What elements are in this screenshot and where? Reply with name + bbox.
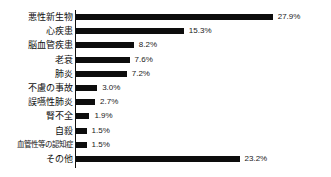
bar-row: その他23.2%	[0, 152, 331, 166]
bar-value-label: 1.5%	[92, 138, 110, 152]
bar-value-label: 7.2%	[132, 67, 150, 81]
bar	[76, 142, 87, 148]
bar-row: 肺炎7.2%	[0, 67, 331, 81]
bar	[76, 57, 130, 63]
bar	[76, 156, 240, 162]
bar-value-label: 2.7%	[100, 95, 118, 109]
bar	[76, 28, 184, 34]
bar-row: 腎不全1.9%	[0, 109, 331, 123]
bar	[76, 128, 87, 134]
category-label: 腎不全	[0, 109, 73, 123]
category-label: その他	[0, 152, 73, 166]
bar-value-label: 1.9%	[94, 109, 112, 123]
bar-value-label: 8.2%	[139, 38, 157, 52]
bar	[76, 71, 127, 77]
category-label: 誤嚥性肺炎	[0, 95, 73, 109]
bar	[76, 42, 134, 48]
bar-row: 血管性等の認知症1.5%	[0, 138, 331, 152]
plot-area: 悪性新生物27.9%心疾患15.3%脳血管疾患8.2%老衰7.6%肺炎7.2%不…	[0, 0, 331, 177]
category-label: 自殺	[0, 124, 73, 138]
bar-chart: 悪性新生物27.9%心疾患15.3%脳血管疾患8.2%老衰7.6%肺炎7.2%不…	[0, 0, 331, 177]
bar-row: 誤嚥性肺炎2.7%	[0, 95, 331, 109]
bar	[76, 14, 273, 20]
bar-row: 心疾患15.3%	[0, 24, 331, 38]
bar-value-label: 7.6%	[135, 53, 153, 67]
category-label: 不慮の事故	[0, 81, 73, 95]
bar-row: 悪性新生物27.9%	[0, 10, 331, 24]
bar-value-label: 15.3%	[189, 24, 212, 38]
bar	[76, 85, 97, 91]
bar-row: 不慮の事故3.0%	[0, 81, 331, 95]
bar-row: 脳血管疾患8.2%	[0, 38, 331, 52]
category-label: 老衰	[0, 53, 73, 67]
category-label: 脳血管疾患	[0, 38, 73, 52]
bar	[76, 113, 89, 119]
category-label: 心疾患	[0, 24, 73, 38]
bar-row: 老衰7.6%	[0, 53, 331, 67]
category-label: 悪性新生物	[0, 10, 73, 24]
category-label: 血管性等の認知症	[0, 138, 73, 152]
category-label: 肺炎	[0, 67, 73, 81]
bar-value-label: 3.0%	[102, 81, 120, 95]
bar-row: 自殺1.5%	[0, 124, 331, 138]
bar	[76, 99, 95, 105]
bar-value-label: 1.5%	[92, 124, 110, 138]
bar-value-label: 27.9%	[278, 10, 301, 24]
bar-value-label: 23.2%	[245, 152, 268, 166]
